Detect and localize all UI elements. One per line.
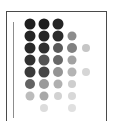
dot-matrix-plot [0, 0, 113, 121]
matrix-dot [68, 32, 77, 41]
matrix-dot [54, 92, 62, 100]
matrix-dot [67, 43, 77, 53]
matrix-dot [25, 19, 36, 30]
matrix-dot [26, 92, 35, 101]
matrix-dot [53, 31, 64, 42]
matrix-dot [39, 19, 50, 30]
matrix-dot [40, 92, 49, 101]
matrix-dot [39, 79, 49, 89]
matrix-dot [68, 80, 76, 88]
matrix-dot [82, 68, 90, 76]
figure-root [0, 0, 113, 121]
matrix-dot [68, 56, 77, 65]
matrix-dot [53, 19, 64, 30]
matrix-dot [25, 31, 36, 42]
matrix-dot [54, 80, 63, 89]
matrix-dot [68, 92, 76, 100]
matrix-dot [68, 68, 77, 77]
matrix-dot [68, 104, 76, 112]
matrix-dot [53, 67, 63, 77]
matrix-dot [25, 55, 36, 66]
matrix-dot [82, 44, 90, 52]
matrix-dot [40, 104, 48, 112]
matrix-dot [39, 67, 50, 78]
matrix-dot [39, 55, 50, 66]
matrix-dot [25, 67, 36, 78]
matrix-dot [39, 31, 50, 42]
matrix-dot [53, 43, 63, 53]
matrix-dot [53, 55, 63, 65]
matrix-dot [25, 79, 35, 89]
matrix-dot [25, 43, 36, 54]
matrix-dot [39, 43, 50, 54]
